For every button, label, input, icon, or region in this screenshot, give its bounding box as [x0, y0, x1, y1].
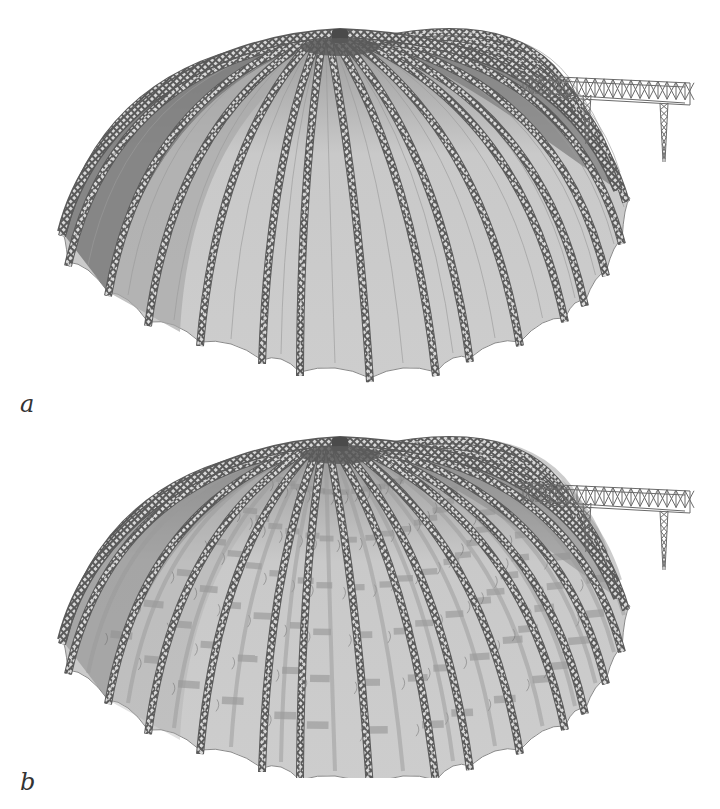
dome-render-smooth	[0, 0, 720, 390]
dome-render-wrinkled	[0, 378, 720, 778]
panel-label-b: b	[20, 770, 35, 794]
figure-panel-b	[0, 378, 720, 778]
figure-panel-a	[0, 0, 720, 390]
